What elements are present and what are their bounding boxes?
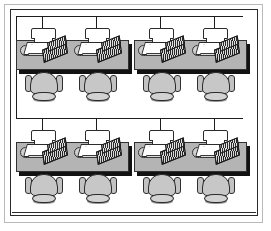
chair-ws-4[interactable]: [197, 72, 235, 105]
workstation-ws-3[interactable]: [136, 28, 188, 70]
chair-base: [86, 92, 110, 101]
chair-base: [150, 92, 174, 101]
workstation-ws-6[interactable]: [72, 130, 124, 172]
chair-ws-5[interactable]: [25, 174, 63, 207]
diagram-canvas: [0, 0, 271, 231]
workstation-ws-8[interactable]: [190, 130, 242, 172]
workstation-ws-2[interactable]: [72, 28, 124, 70]
chair-base: [204, 194, 228, 203]
workstation-ws-7[interactable]: [136, 130, 188, 172]
chair-base: [32, 194, 56, 203]
bus-segment-middle-backbone: [16, 118, 243, 119]
workstation-ws-4[interactable]: [190, 28, 242, 70]
frame-base-line: [12, 212, 256, 213]
chair-base: [204, 92, 228, 101]
chair-ws-8[interactable]: [197, 174, 235, 207]
chair-seat: [84, 174, 112, 196]
chair-ws-1[interactable]: [25, 72, 63, 105]
workstation-ws-5[interactable]: [18, 130, 70, 172]
chair-base: [32, 92, 56, 101]
chair-base: [150, 194, 174, 203]
workstation-ws-1[interactable]: [18, 28, 70, 70]
chair-ws-3[interactable]: [143, 72, 181, 105]
chair-base: [86, 194, 110, 203]
chair-ws-7[interactable]: [143, 174, 181, 207]
chair-seat: [30, 174, 58, 196]
chair-ws-2[interactable]: [79, 72, 117, 105]
chair-seat: [30, 72, 58, 94]
bus-segment-top-backbone: [16, 16, 243, 17]
chair-seat: [148, 174, 176, 196]
chair-seat: [148, 72, 176, 94]
chair-ws-6[interactable]: [79, 174, 117, 207]
chair-seat: [84, 72, 112, 94]
chair-seat: [202, 174, 230, 196]
chair-seat: [202, 72, 230, 94]
